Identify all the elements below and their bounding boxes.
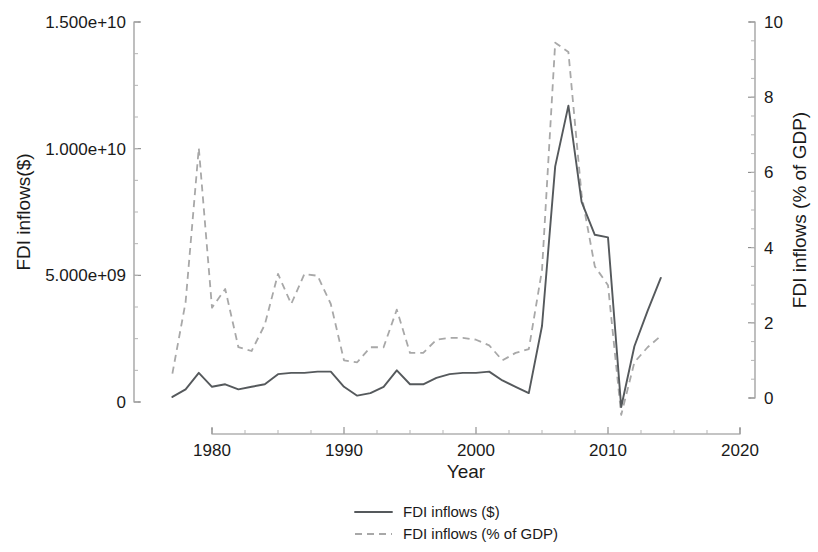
legend-item-0: FDI inflows ($) [355, 503, 500, 520]
right-axis: 0246810 FDI inflows (% of GDP) [748, 13, 810, 408]
y-tick-label: 1.500e+10 [45, 13, 126, 32]
y2-tick-label: 10 [764, 13, 783, 32]
legend: FDI inflows ($) FDI inflows (% of GDP) [355, 503, 558, 542]
left-axis: 05.000e+091.000e+101.500e+10 FDI inflows… [13, 13, 141, 412]
y-tick-label: 0 [117, 393, 126, 412]
y-axis-title: FDI inflows($) [13, 153, 34, 270]
x-axis: 19801990200020102020 Year [193, 427, 759, 482]
fdi-inflows-chart: 05.000e+091.000e+101.500e+10 FDI inflows… [0, 0, 818, 552]
legend-label-0: FDI inflows ($) [403, 503, 500, 520]
x-tick-label: 2020 [721, 441, 759, 460]
series-fdi-percent-gdp-line [172, 43, 660, 415]
chart-canvas: 05.000e+091.000e+101.500e+10 FDI inflows… [0, 0, 818, 552]
y-tick-label: 1.000e+10 [45, 140, 126, 159]
y2-tick-label: 0 [764, 389, 773, 408]
y2-axis-title: FDI inflows (% of GDP) [789, 112, 810, 308]
legend-label-1: FDI inflows (% of GDP) [403, 525, 558, 542]
y2-tick-label: 6 [764, 163, 773, 182]
x-tick-label: 1990 [325, 441, 363, 460]
x-axis-title: Year [447, 461, 486, 482]
y2-tick-label: 2 [764, 314, 773, 333]
x-tick-label: 1980 [193, 441, 231, 460]
y2-tick-label: 8 [764, 88, 773, 107]
x-tick-label: 2010 [589, 441, 627, 460]
legend-item-1: FDI inflows (% of GDP) [355, 525, 558, 542]
y2-tick-label: 4 [764, 239, 773, 258]
series-fdi-dollars-line [172, 106, 660, 407]
y-tick-label: 5.000e+09 [45, 266, 126, 285]
data-series-group [172, 43, 660, 415]
x-tick-label: 2000 [457, 441, 495, 460]
